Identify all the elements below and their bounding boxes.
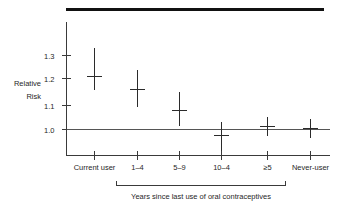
- group-caption-text: Years since last use of oral contracepti…: [131, 192, 271, 201]
- y-axis-title-line2: Risk: [26, 92, 41, 101]
- x-label-1-4: 1–4: [131, 163, 144, 172]
- y-tick-label-1.0: 1.0: [44, 126, 54, 135]
- figure-container: 1.3 1.2 1.1 1.0 Relative Risk Current us…: [0, 0, 341, 208]
- x-label-10-4: 10–4: [213, 163, 230, 172]
- x-label-5-9: 5–9: [173, 163, 186, 172]
- y-tick-label-1.3: 1.3: [44, 52, 54, 61]
- y-tick-label-1.1: 1.1: [44, 102, 54, 111]
- y-tick-label-1.2: 1.2: [44, 75, 54, 84]
- relative-risk-plot: 1.3 1.2 1.1 1.0 Relative Risk Current us…: [0, 0, 341, 208]
- group-bracket: [117, 181, 286, 186]
- x-label-ge-5: ≥5: [263, 163, 271, 172]
- x-label-never-user: Never-user: [292, 163, 330, 172]
- x-label-current-user: Current user: [74, 163, 116, 172]
- y-axis-title-line1: Relative: [14, 79, 41, 88]
